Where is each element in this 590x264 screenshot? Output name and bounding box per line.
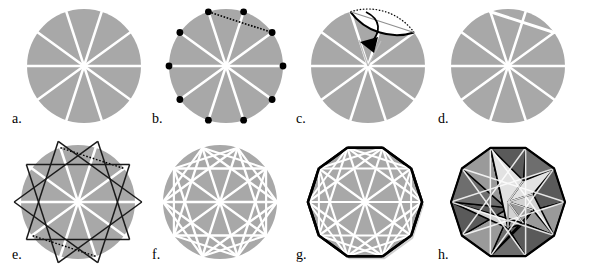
panel-label-h: h. — [438, 248, 449, 262]
panel-f-graphic — [141, 123, 299, 264]
panel-label-f: f. — [152, 248, 160, 262]
panel-f — [141, 123, 299, 264]
panel-label-e: e. — [12, 248, 22, 262]
panel-h — [429, 123, 587, 264]
panel-h-graphic — [429, 123, 587, 264]
panel-g-graphic — [286, 123, 444, 264]
panel-e — [0, 123, 157, 264]
panel-g — [286, 123, 444, 264]
figure-root: a.b.c.d.e.f.g.h. — [0, 0, 590, 264]
panel-label-g: g. — [296, 248, 307, 262]
panel-e-graphic — [0, 123, 157, 264]
